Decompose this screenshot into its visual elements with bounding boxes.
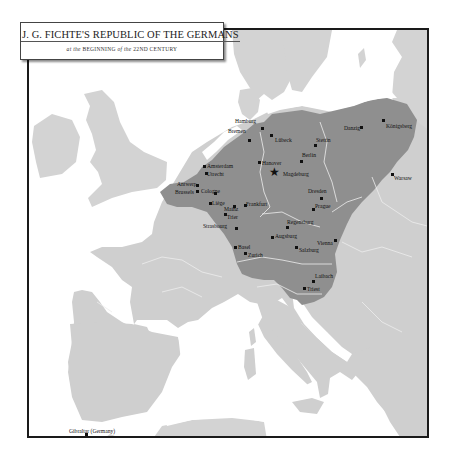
capital-star-icon: ★ [269, 166, 280, 178]
city-dot-vienna [334, 239, 337, 242]
city-dot-strasbourg [235, 227, 238, 230]
map-title: J. G. FICHTE'S REPUBLIC OF THE GERMANS [21, 29, 240, 42]
map-title-box: J. G. FICHTE'S REPUBLIC OF THE GERMANS a… [20, 22, 224, 60]
city-label-stettin: Stettin [316, 137, 331, 143]
city-dot-laibach [312, 280, 315, 283]
city-label-regensburg: Regensburg [287, 219, 314, 225]
north-africa-west [102, 434, 120, 438]
city-label-triest: Triest [307, 286, 320, 292]
great-britain [84, 90, 167, 207]
city-dot-hamburg [261, 127, 264, 130]
subtitle-century: 22ND CENTURY [133, 46, 177, 52]
city-label-gibraltar: Gibraltar (Germany) [69, 428, 115, 434]
subtitle-beginning: BEGINNING [82, 46, 115, 52]
map-canvas [29, 30, 429, 438]
city-dot-regensburg [286, 226, 289, 229]
city-label-dresden: Dresden [308, 188, 327, 194]
city-label-augsburg: Augsburg [275, 233, 297, 239]
city-dot-augsburg [271, 236, 274, 239]
city-label-zurich: Zurich [248, 252, 263, 258]
city-dot-salzburg [295, 246, 298, 249]
map-subtitle: at the BEGINNING of the 22ND CENTURY [21, 46, 223, 52]
city-dot-triest [303, 287, 306, 290]
subtitle-prefix: at the [67, 46, 81, 52]
city-label-magdeburg: Magdeburg [283, 171, 309, 177]
city-dot-amsterdam [203, 165, 206, 168]
city-label-strasbourg: Strasbourg [203, 223, 227, 229]
city-dot-zurich [244, 252, 247, 255]
gotland [358, 48, 366, 68]
city-label-konigsberg: Königsberg [386, 123, 412, 129]
city-dot-stettin [314, 144, 317, 147]
city-label-basel: Basel [238, 244, 250, 250]
subtitle-of: of the [117, 46, 131, 52]
city-dot-lubeck [270, 134, 273, 137]
city-label-frankfurt: Frankfurt [246, 201, 267, 207]
city-label-liege: Liège [212, 200, 225, 206]
city-label-cologne: Cologne [201, 188, 220, 194]
map-frame: Hamburg Lübeck Bremen Stettin Danzig Kön… [27, 28, 429, 438]
city-label-antwerp: Antwerp [177, 181, 197, 187]
city-dot-konigsberg [382, 119, 385, 122]
city-label-vienna: Vienna [317, 240, 333, 246]
city-dot-dresden [320, 197, 323, 200]
city-label-warsaw: Warsaw [394, 175, 412, 181]
city-dot-bremen [248, 139, 251, 142]
city-label-salzburg: Salzburg [299, 247, 319, 253]
city-label-utrecht: Utrecht [207, 171, 224, 177]
city-label-lubeck: Lübeck [275, 137, 292, 143]
city-dot-basel [234, 246, 237, 249]
city-dot-hanover [258, 161, 261, 164]
ireland [32, 114, 80, 178]
city-label-hamburg: Hamburg [235, 118, 256, 124]
city-dot-berlin [300, 160, 303, 163]
city-label-mainz: Mainz [224, 206, 238, 212]
city-label-laibach: Laibach [315, 273, 333, 279]
city-label-prague: Prague [315, 203, 331, 209]
sweden-south [282, 30, 332, 92]
city-dot-danzig [360, 126, 363, 129]
city-label-trier: Trier [227, 214, 238, 220]
city-label-danzig: Danzig [344, 125, 360, 131]
city-dot-brussels [196, 190, 199, 193]
city-label-amsterdam: Amsterdam [207, 163, 233, 169]
city-label-brussels: Brussels [175, 189, 194, 195]
city-label-bremen: Bremen [228, 128, 246, 134]
city-label-berlin: Berlin [302, 152, 316, 158]
